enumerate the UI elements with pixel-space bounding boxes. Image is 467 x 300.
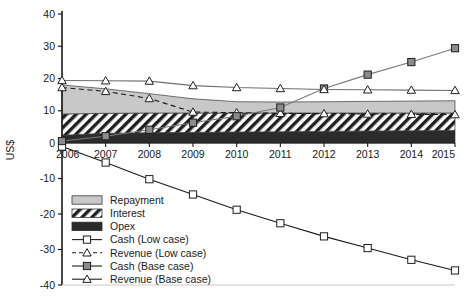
area-repayment	[62, 85, 455, 114]
x-tick-label: 2014	[400, 148, 424, 160]
tick-labels: 403020100-10-20-30-402006200720082009201…	[40, 8, 455, 291]
data-point-marker	[408, 256, 415, 263]
data-point-marker	[451, 45, 458, 52]
x-tick-label: 2015	[432, 148, 456, 160]
legend-label: Cash (Low case)	[110, 233, 189, 245]
data-point-marker	[102, 159, 109, 166]
legend-label: Interest	[110, 207, 145, 219]
y-tick-label: 20	[43, 72, 55, 84]
data-point-marker	[146, 126, 153, 133]
y-tick-label: -30	[40, 243, 55, 255]
data-point-marker	[277, 104, 284, 111]
y-tick-label: 30	[43, 40, 55, 52]
data-point-marker	[146, 176, 153, 183]
y-tick-label: 0	[49, 137, 55, 149]
x-tick-label: 2008	[138, 148, 162, 160]
legend-label: Repayment	[110, 194, 164, 206]
data-point-marker	[189, 119, 196, 126]
legend-swatch-opex	[72, 222, 102, 230]
legend-label: Revenue (Low case)	[110, 247, 206, 259]
legend-item[interactable]: Interest	[72, 207, 145, 219]
chart-svg: 403020100-10-20-30-402006200720082009201…	[0, 0, 467, 300]
legend-item[interactable]: Opex	[72, 220, 136, 232]
chart-container: 403020100-10-20-30-402006200720082009201…	[0, 0, 467, 300]
series-line	[62, 80, 455, 90]
legend-label: Cash (Base case)	[110, 260, 193, 272]
x-tick-label: 2006	[56, 148, 80, 160]
data-point-marker	[408, 58, 415, 65]
legend-item[interactable]: Revenue (Base case)	[72, 273, 211, 285]
y-tick-label: 40	[43, 8, 55, 20]
data-point-marker	[102, 133, 109, 140]
legend-item[interactable]: Repayment	[72, 194, 164, 206]
data-point-marker	[364, 71, 371, 78]
x-tick-label: 2013	[356, 148, 380, 160]
legend-item[interactable]: Cash (Low case)	[72, 233, 189, 245]
x-tick-label: 2011	[269, 148, 292, 160]
data-point-marker	[189, 191, 196, 198]
legend-item[interactable]: Revenue (Low case)	[72, 247, 206, 259]
data-point-marker	[83, 262, 90, 269]
y-tick-label: 10	[43, 104, 55, 116]
y-axis-title-text: US$	[4, 140, 16, 161]
legend-swatch-interest	[72, 209, 102, 217]
x-tick-label: 2010	[225, 148, 249, 160]
y-tick-label: -10	[40, 172, 55, 184]
x-tick-label: 2009	[181, 148, 205, 160]
data-point-marker	[277, 220, 284, 227]
x-tick-label: 2012	[312, 148, 336, 160]
data-point-marker	[58, 137, 65, 144]
data-point-marker	[320, 233, 327, 240]
y-tick-label: -20	[40, 208, 55, 220]
data-point-marker	[364, 244, 371, 251]
legend-label: Opex	[110, 220, 136, 232]
y-axis-title: US$	[4, 140, 16, 161]
data-point-marker	[451, 267, 458, 274]
x-tick-label: 2007	[94, 148, 118, 160]
chart-legend: RepaymentInterestOpexCash (Low case)Reve…	[72, 194, 211, 285]
legend-item[interactable]: Cash (Base case)	[72, 260, 193, 272]
legend-label: Revenue (Base case)	[110, 273, 211, 285]
data-point-marker	[83, 236, 90, 243]
data-point-marker	[233, 206, 240, 213]
legend-swatch-repayment	[72, 196, 102, 204]
y-tick-label: -40	[40, 279, 55, 291]
data-point-marker	[233, 113, 240, 120]
